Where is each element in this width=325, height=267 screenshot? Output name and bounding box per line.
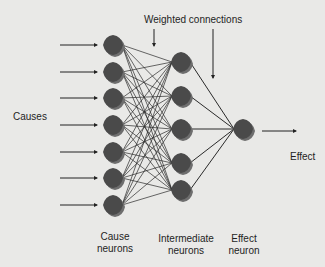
intermediate-neurons-label: Intermediate neurons: [156, 233, 216, 257]
cause-neuron: [103, 168, 125, 190]
intermediate-neuron: [171, 119, 193, 141]
effect-neuron-label: Effect neuron: [226, 233, 262, 257]
cause-neuron: [103, 35, 125, 57]
effect-label: Effect: [290, 151, 315, 163]
intermediate-neuron: [171, 153, 193, 175]
cause-neuron: [103, 88, 125, 110]
cause-neurons-label: Cause neurons: [95, 231, 135, 255]
cause-input-arrows: [60, 45, 97, 205]
cause-neuron: [103, 195, 125, 217]
network-graphic: [0, 0, 325, 267]
intermediate-neuron: [171, 86, 193, 108]
neural-network-diagram: Weighted connections Causes Effect Cause…: [0, 0, 325, 267]
causes-label: Causes: [13, 111, 47, 123]
weighted-connections-label: Weighted connections: [144, 14, 242, 26]
cause-neuron: [103, 142, 125, 164]
intermediate-neuron: [171, 180, 193, 202]
effect-neuron: [233, 119, 255, 141]
intermediate-neuron: [171, 52, 193, 74]
cause-neuron: [103, 62, 125, 84]
cause-neuron: [103, 115, 125, 137]
